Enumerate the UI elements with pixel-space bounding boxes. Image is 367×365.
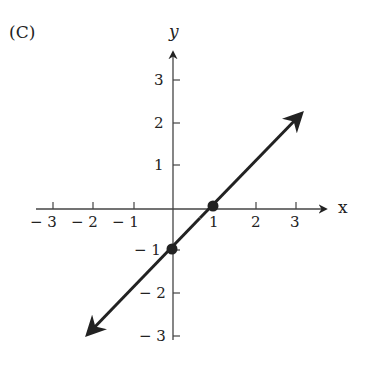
y-axis-label: y bbox=[169, 23, 179, 40]
y-tick-label: − 1 bbox=[134, 243, 161, 258]
point-0-neg1 bbox=[167, 244, 178, 255]
x-tick-label: 1 bbox=[209, 215, 219, 230]
y-ticks bbox=[173, 80, 180, 336]
x-tick-label: − 3 bbox=[30, 215, 57, 230]
y-tick-label: − 2 bbox=[139, 286, 166, 301]
point-1-0 bbox=[208, 201, 219, 212]
y-tick-label: 1 bbox=[154, 158, 164, 173]
y-tick-label: − 3 bbox=[139, 329, 166, 344]
x-tick-label: 2 bbox=[251, 215, 261, 230]
panel-label: (C) bbox=[9, 24, 35, 41]
y-tick-label: 3 bbox=[154, 73, 164, 88]
x-tick-label: 3 bbox=[290, 215, 300, 230]
x-tick-label: − 2 bbox=[71, 215, 98, 230]
x-tick-label: − 1 bbox=[112, 215, 139, 230]
y-tick-label: 2 bbox=[154, 116, 164, 131]
coordinate-plane bbox=[0, 0, 367, 365]
line-y-equals-x-minus-1-lower bbox=[88, 218, 200, 334]
x-ticks bbox=[53, 202, 296, 209]
x-axis-label: x bbox=[338, 199, 348, 216]
